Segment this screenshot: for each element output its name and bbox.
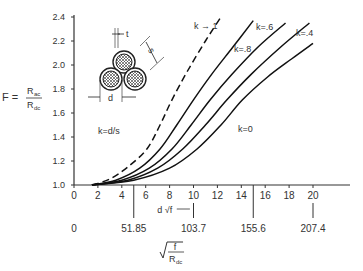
x-tick-label: 14 xyxy=(236,190,248,201)
svg-text:R: R xyxy=(169,254,176,264)
curve-label: k=.6 xyxy=(256,22,273,32)
curve-k-6 xyxy=(92,23,286,185)
svg-text:ac: ac xyxy=(34,91,40,97)
svg-text:F =: F = xyxy=(2,91,18,103)
x-tick-label: 12 xyxy=(212,190,224,201)
x-tick-label: 8 xyxy=(167,190,173,201)
x-secondary-tick-label: 51.85 xyxy=(121,223,146,234)
svg-text:R: R xyxy=(27,86,34,96)
svg-text:d: d xyxy=(108,93,113,103)
x-tick-label: 6 xyxy=(143,190,149,201)
y-tick-label: 2.2 xyxy=(52,36,65,46)
x-tick-label: 10 xyxy=(188,190,200,201)
svg-text:t: t xyxy=(126,29,129,39)
curve-label: k=0 xyxy=(238,124,253,134)
x-secondary-axis-label: fRdc xyxy=(160,242,184,265)
y-tick-label: 1.0 xyxy=(52,180,65,190)
curve-k-4 xyxy=(92,23,309,185)
x-secondary-tick-label: 0 xyxy=(71,223,77,234)
y-tick-label: 1.2 xyxy=(52,156,65,166)
y-tick-label: 1.8 xyxy=(52,84,65,94)
x-tick-label: 18 xyxy=(284,190,296,201)
curve-label: k=.8 xyxy=(234,44,251,54)
cable-inset-diagram: tsd xyxy=(88,28,164,103)
curve-k-8 xyxy=(92,21,253,185)
x-tick-label: 16 xyxy=(260,190,272,201)
legend-note: k=d/s xyxy=(98,126,120,136)
svg-text:dc: dc xyxy=(176,259,182,265)
svg-text:s: s xyxy=(146,46,157,55)
svg-text:dc: dc xyxy=(34,105,40,111)
curve-label: k → 1 xyxy=(194,21,218,31)
y-axis-label: F =RacRdc xyxy=(2,86,42,111)
x-tick-label: 20 xyxy=(307,190,319,201)
x-secondary-tick-label: 155.6 xyxy=(241,223,266,234)
x-axis-label: d √f xyxy=(157,205,172,215)
chart: 1.01.21.41.61.82.02.22.40246810121416182… xyxy=(0,0,363,271)
x-tick-label: 0 xyxy=(71,190,77,201)
y-tick-label: 1.6 xyxy=(52,108,65,118)
curves xyxy=(92,17,313,185)
y-tick-label: 2.4 xyxy=(52,12,65,22)
y-tick-label: 2.0 xyxy=(52,60,65,70)
x-tick-label: 4 xyxy=(119,190,125,201)
y-tick-label: 1.4 xyxy=(52,132,65,142)
x-secondary-tick-label: 103.7 xyxy=(181,223,206,234)
x-tick-label: 2 xyxy=(95,190,101,201)
curve-label: k=.4 xyxy=(296,28,313,38)
svg-text:f: f xyxy=(174,242,177,252)
x-secondary-tick-label: 207.4 xyxy=(300,223,325,234)
svg-text:R: R xyxy=(27,100,34,110)
axes xyxy=(71,15,350,218)
